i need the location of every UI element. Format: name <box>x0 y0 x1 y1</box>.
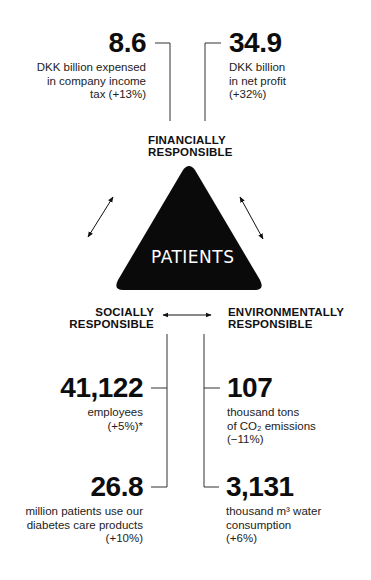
metric-desc-line: million patients use our <box>0 505 143 519</box>
metric-patients: 26.8 million patients use our diabetes c… <box>0 473 143 546</box>
arrow-financial-environmental <box>240 197 263 239</box>
metric-desc-line: tax (+13%) <box>0 88 146 102</box>
patients-label: PATIENTS <box>151 247 235 267</box>
connector-environmental <box>204 334 219 487</box>
metric-desc-line: thousand m³ water <box>226 505 366 519</box>
metric-value: 3,131 <box>226 473 366 501</box>
heading-socially-responsible: SOCIALLY RESPONSIBLE <box>69 306 154 330</box>
metric-value: 41,122 <box>0 374 143 402</box>
metric-desc-line: DKK billion <box>229 61 359 75</box>
metric-desc-line: (+6%) <box>226 532 366 546</box>
connector-profit <box>205 43 221 121</box>
metric-desc-line: employees <box>0 406 143 420</box>
metric-value: 8.6 <box>0 29 146 57</box>
heading-environmentally-responsible: ENVIRONMENTALLY RESPONSIBLE <box>228 306 344 330</box>
metric-value: 26.8 <box>0 473 143 501</box>
metric-value: 107 <box>227 374 367 402</box>
metric-desc-line: thousand tons <box>227 406 367 420</box>
metric-co2: 107 thousand tons of CO₂ emissions (−11%… <box>227 374 367 447</box>
metric-employees: 41,122 employees (+5%)* <box>0 374 143 433</box>
metric-desc-line: DKK billion expensed <box>0 61 146 75</box>
heading-line: RESPONSIBLE <box>228 318 344 330</box>
metric-water: 3,131 thousand m³ water consumption (+6%… <box>226 473 366 546</box>
metric-profit: 34.9 DKK billion in net profit (+32%) <box>229 29 359 102</box>
heading-financially-responsible: FINANCIALLY RESPONSIBLE <box>148 134 233 158</box>
heading-line: FINANCIALLY <box>148 134 233 146</box>
heading-line: RESPONSIBLE <box>148 146 233 158</box>
metric-tax: 8.6 DKK billion expensed in company inco… <box>0 29 146 102</box>
metric-desc-line: in company income <box>0 75 146 89</box>
connector-social <box>151 334 167 487</box>
metric-desc-line: consumption <box>226 519 366 533</box>
connector-tax <box>155 43 170 121</box>
metric-desc-line: in net profit <box>229 75 359 89</box>
heading-line: SOCIALLY <box>69 306 154 318</box>
heading-line: ENVIRONMENTALLY <box>228 306 344 318</box>
arrow-financial-social <box>88 197 113 237</box>
metric-desc-line: of CO₂ emissions <box>227 420 367 434</box>
metric-desc-line: (+10%) <box>0 532 143 546</box>
metric-desc-line: diabetes care products <box>0 519 143 533</box>
metric-desc-line: (−11%) <box>227 433 367 447</box>
metric-value: 34.9 <box>229 29 359 57</box>
metric-desc-line: (+32%) <box>229 88 359 102</box>
patients-triangle <box>116 166 261 290</box>
metric-desc-line: (+5%)* <box>0 420 143 434</box>
heading-line: RESPONSIBLE <box>69 318 154 330</box>
